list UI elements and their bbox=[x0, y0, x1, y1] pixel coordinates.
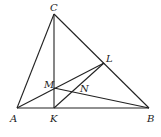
segment-ca bbox=[17, 14, 54, 108]
label-k: K bbox=[49, 113, 58, 124]
segment-mb bbox=[54, 88, 149, 108]
label-n: N bbox=[79, 83, 90, 94]
segment-bc bbox=[54, 14, 149, 108]
geometry-diagram: C A K B M L N bbox=[0, 0, 161, 137]
label-c: C bbox=[50, 2, 58, 13]
label-b: B bbox=[146, 113, 154, 124]
segment-al bbox=[17, 63, 104, 108]
label-m: M bbox=[43, 79, 55, 90]
label-l: L bbox=[105, 53, 113, 64]
label-a: A bbox=[9, 113, 17, 124]
